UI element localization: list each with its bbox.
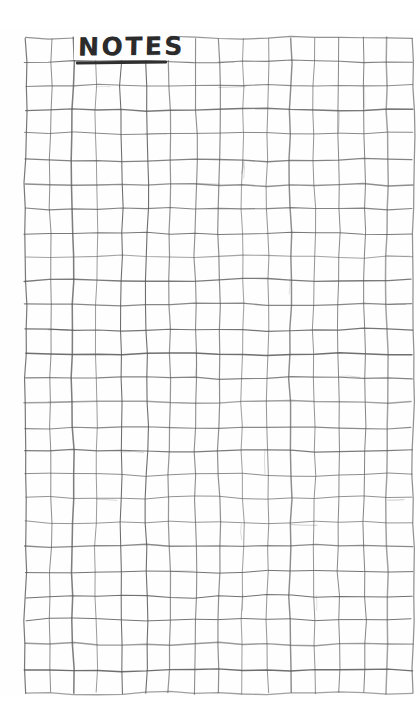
bottom-margin xyxy=(0,697,420,727)
notes-page: NOTES xyxy=(0,0,420,727)
top-margin xyxy=(0,0,420,30)
graph-paper-grid xyxy=(0,0,420,727)
